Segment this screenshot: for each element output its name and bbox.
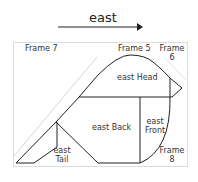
back-label: east Back: [92, 123, 131, 132]
front-label: east Front: [142, 117, 168, 135]
frame-8-label: Frame 8: [158, 146, 186, 164]
head-curve: [16, 55, 170, 163]
head-label: east Head: [117, 73, 158, 82]
front-line2: Front: [142, 126, 168, 135]
frame-6-line1: Frame: [158, 44, 186, 53]
guide-diagonal: [14, 57, 97, 156]
frame-6-line2: 6: [158, 53, 186, 62]
frame-6-label: Frame 6: [158, 44, 186, 62]
diagram: east Frame 7 Frame 5 Frame 6 Frame 8 eas…: [0, 0, 198, 182]
direction-label: east: [83, 10, 123, 25]
nose-triangle: [170, 78, 182, 97]
tail-line1: east: [51, 146, 73, 155]
front-line1: east: [142, 117, 168, 126]
frame-8-line2: 8: [158, 155, 186, 164]
tail-line2: Tail: [51, 155, 73, 164]
arrowhead-icon: [137, 23, 143, 31]
frame-8-line1: Frame: [158, 146, 186, 155]
frame-5-label: Frame 5: [118, 44, 151, 53]
tail-label: east Tail: [51, 146, 73, 164]
frame-7-label: Frame 7: [25, 44, 58, 53]
